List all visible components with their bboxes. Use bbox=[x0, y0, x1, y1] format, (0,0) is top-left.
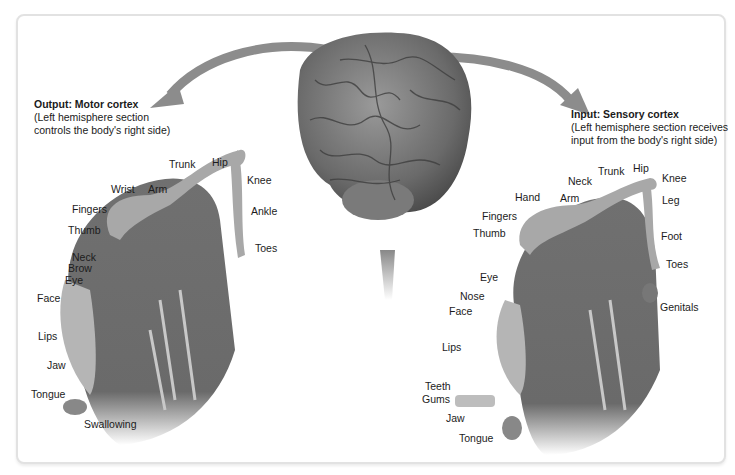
sensory-label-nose: Nose bbox=[460, 290, 485, 302]
sensory-label-gums: Gums bbox=[422, 393, 450, 405]
sensory-desc-line1: (Left hemisphere section receives bbox=[571, 121, 728, 134]
motor-label-toes: Toes bbox=[255, 242, 277, 254]
motor-label-arm: Arm bbox=[148, 183, 167, 195]
sensory-label-hand: Hand bbox=[515, 191, 540, 203]
motor-desc-line1: (Left hemisphere section bbox=[34, 111, 170, 124]
brain-illustration bbox=[0, 0, 735, 475]
sensory-label-neck: Neck bbox=[568, 175, 592, 187]
motor-label-face: Face bbox=[37, 292, 60, 304]
sensory-label-arm: Arm bbox=[560, 192, 579, 204]
motor-label-tongue: Tongue bbox=[31, 388, 65, 400]
sensory-label-thumb: Thumb bbox=[473, 227, 506, 239]
sensory-label-hip: Hip bbox=[633, 162, 649, 174]
sensory-heading: Input: Sensory cortex bbox=[571, 108, 728, 121]
motor-label-fingers: Fingers bbox=[72, 203, 107, 215]
sensory-label-jaw: Jaw bbox=[446, 412, 465, 424]
motor-label-trunk: Trunk bbox=[169, 158, 195, 170]
motor-label-thumb: Thumb bbox=[68, 224, 101, 236]
motor-label-hip: Hip bbox=[212, 156, 228, 168]
motor-label-ankle: Ankle bbox=[251, 205, 277, 217]
motor-label-swallowing: Swallowing bbox=[84, 418, 137, 430]
sensory-label-toes: Toes bbox=[666, 258, 688, 270]
sensory-label-genitals: Genitals bbox=[660, 301, 699, 313]
sensory-label-trunk: Trunk bbox=[598, 165, 624, 177]
sensory-desc-line2: input from the body's right side) bbox=[571, 134, 728, 147]
sensory-label-knee: Knee bbox=[662, 172, 687, 184]
motor-label-knee: Knee bbox=[247, 174, 272, 186]
sensory-label-fingers: Fingers bbox=[482, 210, 517, 222]
motor-label-lips: Lips bbox=[38, 330, 57, 342]
motor-label-jaw: Jaw bbox=[47, 359, 66, 371]
motor-desc-line2: controls the body's right side) bbox=[34, 124, 170, 137]
motor-heading: Output: Motor cortex bbox=[34, 98, 170, 111]
brain-icon bbox=[298, 33, 472, 301]
sensory-label-teeth: Teeth bbox=[425, 380, 451, 392]
sensory-label-foot: Foot bbox=[661, 230, 682, 242]
motor-label-brow: Brow bbox=[68, 262, 92, 274]
motor-label-eye: Eye bbox=[65, 274, 83, 286]
motor-cortex-caption: Output: Motor cortex (Left hemisphere se… bbox=[34, 98, 170, 137]
sensory-cortex-caption: Input: Sensory cortex (Left hemisphere s… bbox=[571, 108, 728, 147]
sensory-label-lips: Lips bbox=[442, 341, 461, 353]
sensory-label-leg: Leg bbox=[662, 194, 680, 206]
sensory-label-tongue: Tongue bbox=[459, 432, 493, 444]
motor-label-wrist: Wrist bbox=[111, 183, 135, 195]
sensory-label-face: Face bbox=[449, 305, 472, 317]
sensory-label-eye: Eye bbox=[480, 271, 498, 283]
